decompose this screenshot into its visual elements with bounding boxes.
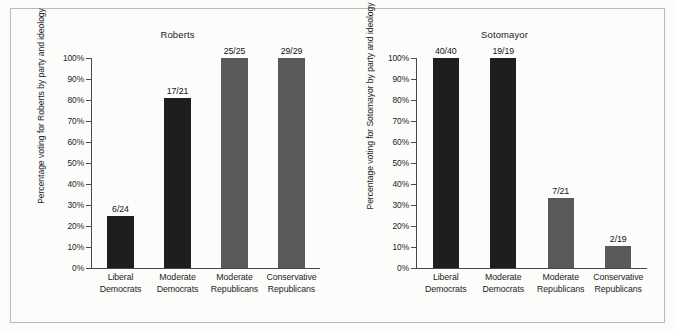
y-axis-tick-label: 70% <box>68 116 84 126</box>
y-axis-tick-label: 50% <box>393 158 409 168</box>
y-axis-tick-label: 90% <box>393 74 409 84</box>
y-axis-tick-label: 50% <box>68 158 84 168</box>
y-axis-tick-label: 100% <box>63 53 84 63</box>
bar-value-label: 2/19 <box>610 234 627 244</box>
x-axis-category-label: LiberalDemocrats <box>92 272 149 295</box>
figure-frame: Roberts Percentage voting for Roberts by… <box>10 8 665 323</box>
bar[interactable] <box>548 198 574 268</box>
bar-value-label: 17/21 <box>167 86 189 96</box>
y-axis-tick <box>411 268 417 269</box>
x-axis-category-line: Liberal <box>417 272 475 284</box>
bar-slot[interactable]: 7/21 <box>548 58 574 268</box>
y-axis-tick-label: 60% <box>68 137 84 147</box>
y-axis-tick-label: 90% <box>68 74 84 84</box>
x-axis-category-line: Democrats <box>149 284 206 296</box>
plot-area: 100%90%80%70%60%50%40%30%20%10%0% 40/401… <box>417 58 647 268</box>
bar[interactable] <box>278 58 304 268</box>
bar-value-label: 25/25 <box>224 46 246 56</box>
y-axis-tick-label: 100% <box>388 53 409 63</box>
y-axis-title: Percentage voting for Sotomayor by party… <box>365 1 375 211</box>
x-axis-category-line: Republicans <box>590 284 648 296</box>
figure-page: Roberts Percentage voting for Roberts by… <box>0 0 675 331</box>
y-axis-tick-label: 10% <box>393 242 409 252</box>
x-axis-category-line: Democrats <box>417 284 475 296</box>
y-axis-tick-label: 30% <box>393 200 409 210</box>
y-axis-tick-label: 30% <box>68 200 84 210</box>
bar-slot[interactable]: 25/25 <box>221 58 247 268</box>
y-axis-tick-label: 70% <box>393 116 409 126</box>
x-axis-category-label: ConservativeRepublicans <box>263 272 320 295</box>
bar-slot[interactable]: 2/19 <box>605 58 631 268</box>
x-axis-line <box>416 268 647 269</box>
chart-roberts: Roberts Percentage voting for Roberts by… <box>14 9 341 324</box>
bar[interactable] <box>490 58 516 268</box>
y-axis-tick-label: 80% <box>393 95 409 105</box>
bar[interactable] <box>221 58 247 268</box>
chart-title: Roberts <box>14 29 341 40</box>
bar-value-label: 29/29 <box>281 46 303 56</box>
y-axis-tick-label: 0% <box>397 263 409 273</box>
y-axis-tick-label: 80% <box>68 95 84 105</box>
x-axis-category-line: Moderate <box>475 272 533 284</box>
x-axis-category-line: Democrats <box>475 284 533 296</box>
x-axis-category-line: Republicans <box>206 284 263 296</box>
charts-container: Roberts Percentage voting for Roberts by… <box>11 9 666 324</box>
plot-area: 100%90%80%70%60%50%40%30%20%10%0% 6/2417… <box>92 58 320 268</box>
y-axis-tick-label: 20% <box>393 221 409 231</box>
bar-value-label: 19/19 <box>492 46 514 56</box>
chart-sotomayor: Sotomayor Percentage voting for Sotomayo… <box>341 9 668 324</box>
bar-value-label: 6/24 <box>112 204 129 214</box>
bar[interactable] <box>605 246 631 268</box>
bar-slot[interactable]: 19/19 <box>490 58 516 268</box>
bars-group: 40/4019/197/212/19 <box>417 58 647 268</box>
bar-value-label: 40/40 <box>435 46 457 56</box>
bar[interactable] <box>164 98 190 268</box>
x-axis-category-line: Moderate <box>206 272 263 284</box>
bars-group: 6/2417/2125/2529/29 <box>92 58 320 268</box>
x-axis-category-label: ConservativeRepublicans <box>590 272 648 295</box>
x-axis-category-line: Conservative <box>263 272 320 284</box>
chart-title: Sotomayor <box>341 29 668 40</box>
x-axis-category-line: Republicans <box>263 284 320 296</box>
x-axis-category-line: Moderate <box>149 272 206 284</box>
bar[interactable] <box>107 216 133 269</box>
y-axis-tick-label: 60% <box>393 137 409 147</box>
bar[interactable] <box>433 58 459 268</box>
x-axis-category-line: Republicans <box>532 284 590 296</box>
bar-value-label: 7/21 <box>552 186 569 196</box>
bar-slot[interactable]: 6/24 <box>107 58 133 268</box>
x-axis-category-line: Moderate <box>532 272 590 284</box>
y-axis-tick-label: 10% <box>68 242 84 252</box>
bar-slot[interactable]: 17/21 <box>164 58 190 268</box>
x-axis-category-line: Democrats <box>92 284 149 296</box>
bar-slot[interactable]: 40/40 <box>433 58 459 268</box>
x-axis-category-label: ModerateRepublicans <box>532 272 590 295</box>
y-axis-tick-label: 0% <box>72 263 84 273</box>
bar-slot[interactable]: 29/29 <box>278 58 304 268</box>
x-axis-category-label: LiberalDemocrats <box>417 272 475 295</box>
x-axis-category-label: ModerateRepublicans <box>206 272 263 295</box>
x-axis-category-line: Conservative <box>590 272 648 284</box>
x-axis-category-label: ModerateDemocrats <box>475 272 533 295</box>
x-axis-category-label: ModerateDemocrats <box>149 272 206 295</box>
x-axis-category-line: Liberal <box>92 272 149 284</box>
y-axis-tick <box>86 268 92 269</box>
x-axis-line <box>91 268 320 269</box>
y-axis-tick-label: 20% <box>68 221 84 231</box>
y-axis-tick-label: 40% <box>68 179 84 189</box>
y-axis-tick-label: 40% <box>393 179 409 189</box>
y-axis-title: Percentage voting for Roberts by party a… <box>36 1 46 211</box>
